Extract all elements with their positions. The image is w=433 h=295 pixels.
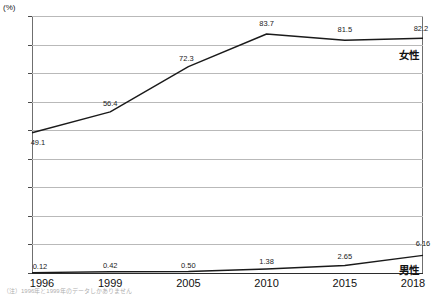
y-axis-tick-mark — [28, 273, 32, 274]
y-axis-unit-label: (%) — [3, 4, 15, 12]
data-point-label: 82.2 — [414, 24, 429, 33]
data-point-label: 6.16 — [416, 239, 431, 248]
series-name-label: 男性 — [399, 262, 419, 277]
series-line — [32, 255, 423, 272]
line-chart: (%) 0102030405060708090 1996199920052010… — [0, 0, 433, 295]
data-point-label: 49.1 — [31, 137, 46, 146]
data-point-label: 81.5 — [337, 25, 352, 34]
data-point-label: 0.42 — [103, 260, 118, 269]
data-point-label: 83.7 — [259, 18, 274, 27]
series-name-label: 女性 — [399, 47, 419, 62]
data-point-label: 2.65 — [337, 252, 352, 261]
chart-footnote: （注）1996年と1999年のデータしかありません — [3, 286, 433, 295]
data-point-label: 56.4 — [103, 98, 118, 107]
data-point-label: 0.50 — [181, 260, 196, 269]
data-point-label: 1.38 — [259, 257, 274, 266]
x-axis-line — [32, 273, 423, 274]
data-point-label: 0.12 — [33, 261, 48, 270]
series-line — [32, 34, 423, 133]
data-point-label: 72.3 — [179, 53, 194, 62]
series-lines — [32, 16, 423, 273]
